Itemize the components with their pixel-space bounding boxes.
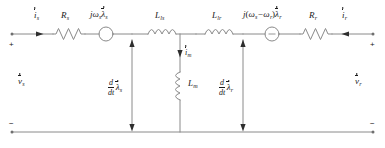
terminal-dot-left-top xyxy=(11,33,14,36)
label-rotor-current: ir xyxy=(342,11,347,20)
terminal-dot-left-bottom xyxy=(11,131,14,134)
label-stator-resistance: Rs xyxy=(61,11,69,20)
label-rotor-flux-derivative: d dt λr xyxy=(219,72,233,97)
rotor-emf-omega-r: ω xyxy=(263,9,269,19)
rotor-emf-omega-r-subscript: r xyxy=(270,14,272,20)
polarity-left-bottom: − xyxy=(9,119,14,128)
rotor-emf-lambda-subscript: r xyxy=(279,14,281,20)
stator-flux-denominator: dt xyxy=(108,88,114,96)
rotor-current-subscript: r xyxy=(345,15,347,21)
arrow-stator-flux-down xyxy=(129,124,134,132)
magnetizing-current-subscript: m xyxy=(187,52,191,58)
rotor-flux-lambda-subscript: r xyxy=(231,87,233,93)
rotor-leakage-subscript: lr xyxy=(217,15,221,21)
circuit-diagram: is Rs jωsλs Lls Llr j(ωs−ωr)λr Rr ir im … xyxy=(0,0,385,148)
label-rotor-emf-source: j(ωs−ωr)λr xyxy=(243,10,281,19)
rotor-resistance-subscript: r xyxy=(315,15,317,21)
stator-flux-lambda-subscript: s xyxy=(120,87,122,93)
circuit-schematic-svg xyxy=(0,0,385,148)
label-magnetizing-inductance: Lm xyxy=(188,79,197,88)
inductor-rotor-leakage-symbol xyxy=(205,30,233,35)
inductor-stator-leakage-symbol xyxy=(148,30,176,35)
stator-emf-lambda-subscript: s xyxy=(105,14,107,20)
arrow-rotor-flux-up xyxy=(240,40,245,48)
label-stator-leakage-inductance: Lls xyxy=(155,11,164,20)
rotor-flux-denominator: dt xyxy=(219,88,225,96)
rotor-resistance-symbol: R xyxy=(309,10,315,20)
rotor-flux-fraction: d dt xyxy=(219,79,225,97)
inductor-magnetizing-symbol xyxy=(176,72,181,100)
stator-voltage-subscript: s xyxy=(22,81,24,87)
terminal-dot-right-top xyxy=(372,33,375,36)
stator-resistance-symbol: R xyxy=(61,10,67,20)
resistor-rotor-symbol xyxy=(300,29,332,40)
label-rotor-voltage: vr xyxy=(355,77,361,86)
label-rotor-resistance: Rr xyxy=(309,11,317,20)
label-stator-current: is xyxy=(34,11,39,20)
arrow-stator-current xyxy=(36,31,44,36)
arrow-magnetizing-current xyxy=(177,50,182,58)
arrow-stator-flux-up xyxy=(129,40,134,48)
stator-flux-fraction: d dt xyxy=(108,79,114,97)
rotor-flux-numerator: d xyxy=(219,79,225,88)
polarity-right-top: + xyxy=(370,40,375,49)
voltage-source-stator-circle xyxy=(99,27,113,41)
stator-flux-numerator: d xyxy=(108,79,114,88)
label-magnetizing-current: im xyxy=(185,49,191,57)
rotor-emf-omega-s: ω xyxy=(249,9,255,19)
rotor-voltage-subscript: r xyxy=(359,81,361,87)
stator-resistance-subscript: s xyxy=(67,15,69,21)
stator-emf-omega: ω xyxy=(93,9,99,19)
resistor-stator-symbol xyxy=(53,29,85,40)
terminal-dot-right-bottom xyxy=(372,131,375,134)
magnetizing-inductance-subscript: m xyxy=(193,83,197,89)
label-stator-voltage: vs xyxy=(18,77,24,86)
arrow-rotor-current xyxy=(342,31,350,36)
stator-leakage-subscript: ls xyxy=(160,15,164,21)
label-rotor-leakage-inductance: Llr xyxy=(212,11,221,20)
polarity-left-top: + xyxy=(9,40,14,49)
label-stator-emf-source: jωsλs xyxy=(90,10,108,19)
label-stator-flux-derivative: d dt λs xyxy=(108,72,122,97)
polarity-right-bottom: − xyxy=(370,119,375,128)
arrow-rotor-flux-down xyxy=(240,124,245,132)
stator-current-subscript: s xyxy=(37,15,39,21)
